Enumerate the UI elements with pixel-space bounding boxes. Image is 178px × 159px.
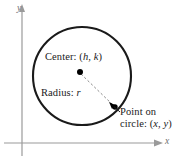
center-point-dot bbox=[77, 69, 83, 75]
circle-point-label-line1: Point on bbox=[120, 106, 156, 117]
circle-diagram-figure: Center: (h, k) Radius: r Point oncircle:… bbox=[0, 0, 178, 159]
circle-point-label: Point oncircle: (x, y) bbox=[120, 106, 178, 129]
diagram-canvas bbox=[0, 0, 178, 159]
circle-outline bbox=[33, 27, 131, 125]
radius-label: Radius: r bbox=[41, 87, 81, 99]
x-axis-label: x bbox=[165, 136, 169, 146]
circle-point-label-line2-prefix: circle: ( bbox=[120, 118, 153, 129]
radius-dashed-line bbox=[81, 74, 114, 106]
radius-label-prefix: Radius: bbox=[41, 87, 77, 98]
center-label-prefix: Center: ( bbox=[45, 51, 83, 62]
center-label: Center: (h, k) bbox=[45, 51, 102, 63]
x-axis-arrowhead-icon bbox=[154, 140, 163, 147]
y-axis-label: y bbox=[17, 3, 21, 13]
circle-point-label-suffix: ) bbox=[168, 118, 172, 129]
radius-label-var-r: r bbox=[77, 87, 81, 98]
center-label-suffix: ) bbox=[99, 51, 103, 62]
